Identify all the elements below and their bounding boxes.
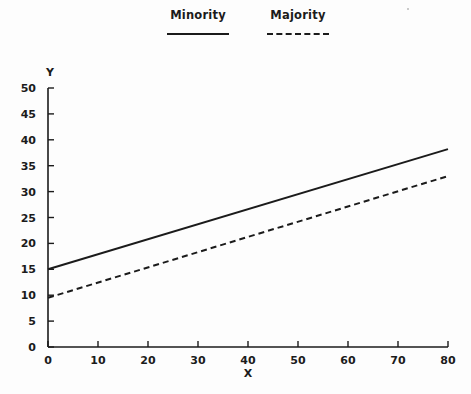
y-tick-label: 20 (21, 237, 37, 250)
x-tick-label: 0 (44, 354, 52, 367)
series-line-majority (48, 176, 448, 298)
y-tick-label: 30 (21, 186, 37, 199)
y-tick-label: 15 (21, 263, 36, 276)
x-tick-label: 50 (290, 354, 306, 367)
y-tick-label: 5 (28, 315, 36, 328)
x-tick-label: 70 (390, 354, 406, 367)
y-tick-label: 10 (21, 289, 37, 302)
chart-figure: Minority Majority 05101520253035404550 0… (0, 0, 471, 394)
x-tick-label: 60 (340, 354, 356, 367)
data-series-group (48, 149, 448, 298)
series-line-minority (48, 149, 448, 269)
y-tick-label: 50 (21, 82, 37, 95)
y-tick-label: 45 (21, 108, 36, 121)
y-tick-label: 35 (21, 160, 36, 173)
x-axis: 01020304050607080 (44, 341, 456, 367)
y-axis-title: Y (45, 66, 55, 79)
x-tick-label: 10 (90, 354, 106, 367)
y-tick-label: 40 (21, 134, 37, 147)
plot-area: 05101520253035404550 01020304050607080 Y… (0, 0, 471, 394)
y-tick-label: 0 (28, 341, 36, 354)
x-axis-title: X (244, 367, 253, 380)
y-axis: 05101520253035404550 (21, 82, 54, 354)
x-tick-label: 40 (240, 354, 256, 367)
x-tick-label: 80 (440, 354, 456, 367)
y-tick-label: 25 (21, 212, 36, 225)
x-tick-label: 20 (140, 354, 156, 367)
x-tick-label: 30 (190, 354, 206, 367)
